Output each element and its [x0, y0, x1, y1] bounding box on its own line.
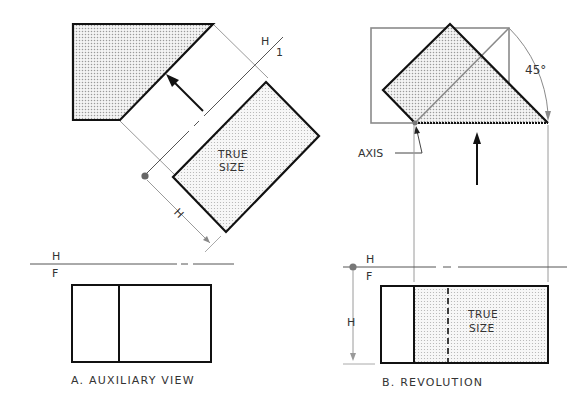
view-direction-arrow: [172, 80, 203, 111]
diagram-canvas: TRUE SIZE H 1 H H F A. AUXILIARY VIEW 45…: [0, 0, 586, 412]
true-size-label: SIZE: [469, 322, 495, 334]
dimension-label-h: H: [347, 316, 355, 329]
true-size-label: TRUE: [217, 148, 248, 160]
fold-label-h: H: [52, 250, 60, 263]
panel-b-revolution: 45° AXIS H F H TRUE SIZE B. REVOLUTION: [343, 24, 567, 389]
true-size-label: TRUE: [467, 308, 498, 320]
arrowhead-icon: [350, 353, 356, 361]
projector-line: [120, 121, 175, 175]
dimension-label-h: H: [171, 206, 186, 221]
top-view-shape: [73, 24, 213, 120]
axis-point: [413, 121, 418, 126]
caption-b: B. REVOLUTION: [382, 376, 483, 389]
fold-label-h: H: [261, 35, 269, 48]
fold-label-f: F: [52, 267, 58, 280]
arrowhead-icon: [473, 132, 481, 144]
true-size-label: SIZE: [219, 161, 245, 173]
fold-label-f: F: [366, 270, 372, 283]
projector-line: [213, 24, 268, 78]
reference-point: [141, 172, 148, 179]
axis-label: AXIS: [358, 147, 383, 160]
fold-label-h: H: [366, 253, 374, 266]
fold-line-h1-dash: [194, 121, 199, 126]
reference-point: [349, 263, 356, 270]
angle-label: 45°: [525, 63, 546, 77]
arrowhead-icon: [414, 126, 420, 134]
panel-a-auxiliary-view: TRUE SIZE H 1 H H F A. AUXILIARY VIEW: [30, 24, 319, 387]
front-view-shape: [72, 285, 211, 362]
axis-leader: [395, 131, 422, 153]
fold-label-1: 1: [276, 46, 283, 59]
caption-a: A. AUXILIARY VIEW: [71, 374, 195, 387]
